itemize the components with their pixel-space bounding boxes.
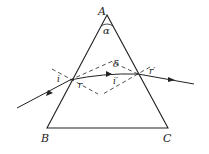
prism-diagram: A B C α i r i′ r′ δ	[0, 0, 209, 154]
incident-ray	[17, 80, 70, 108]
apex-angle-label: α	[103, 25, 110, 36]
refraction-angle-label: r	[78, 80, 83, 90]
second-incidence-label: i′	[113, 76, 118, 86]
incident-extension	[70, 60, 115, 80]
deviation-angle-label: δ	[113, 58, 119, 69]
incidence-angle-label: i	[57, 74, 60, 84]
vertex-label-b: B	[40, 132, 49, 145]
vertex-label-c: C	[163, 132, 172, 145]
internal-arrow	[106, 71, 112, 77]
incident-arrow	[46, 90, 53, 96]
emergent-ray	[138, 74, 194, 84]
second-refraction-label: r′	[149, 66, 155, 76]
vertex-label-a: A	[97, 5, 106, 18]
emergent-arrow	[168, 77, 175, 82]
